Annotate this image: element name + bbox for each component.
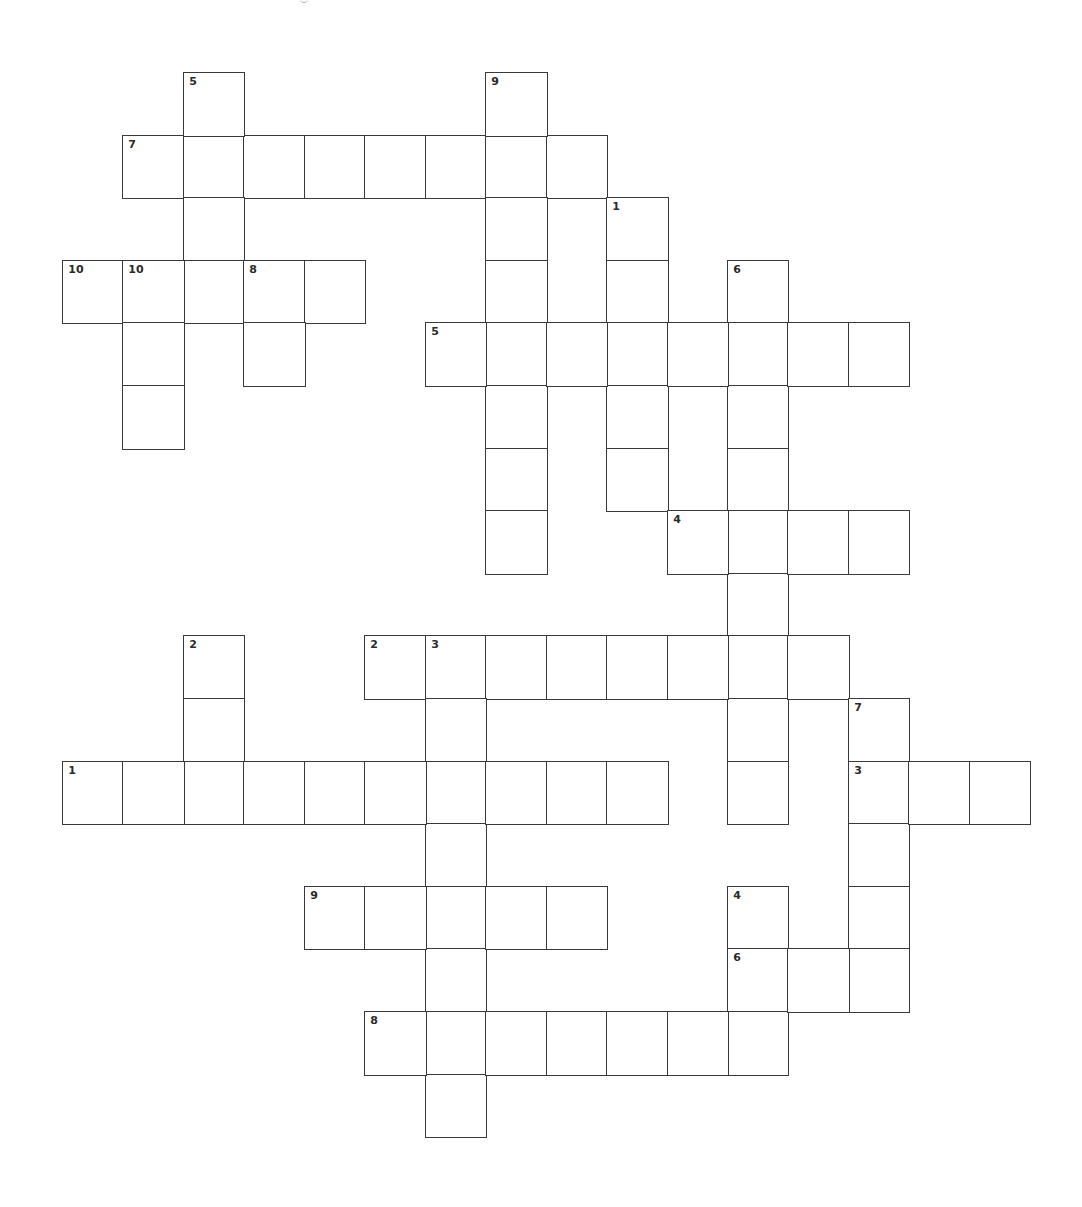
crossword-cell[interactable] <box>183 197 245 262</box>
crossword-cell[interactable] <box>485 448 548 512</box>
crossword-cell[interactable] <box>425 698 487 763</box>
crossword-cell[interactable] <box>425 1011 487 1076</box>
crossword-cell[interactable]: 3 <box>425 635 487 700</box>
crossword-cell[interactable]: 4 <box>667 510 729 575</box>
cell-letter-input[interactable] <box>426 699 486 762</box>
cell-letter-input[interactable] <box>547 323 607 386</box>
cell-letter-input[interactable] <box>547 1012 607 1075</box>
cell-letter-input[interactable] <box>788 323 849 386</box>
cell-letter-input[interactable] <box>849 824 909 887</box>
crossword-cell[interactable] <box>243 135 306 199</box>
cell-letter-input[interactable] <box>607 198 668 261</box>
crossword-cell[interactable]: 8 <box>364 1011 427 1076</box>
cell-letter-input[interactable] <box>486 887 547 949</box>
crossword-cell[interactable] <box>727 448 789 512</box>
crossword-cell[interactable] <box>546 886 608 950</box>
cell-letter-input[interactable] <box>426 1012 486 1075</box>
crossword-cell[interactable] <box>727 1011 789 1076</box>
cell-letter-input[interactable] <box>123 136 184 198</box>
cell-letter-input[interactable] <box>123 386 184 449</box>
cell-letter-input[interactable] <box>547 887 607 949</box>
cell-letter-input[interactable] <box>426 949 486 1012</box>
cell-letter-input[interactable] <box>486 762 547 824</box>
crossword-cell[interactable]: 10 <box>62 260 124 324</box>
crossword-cell[interactable]: 10 <box>122 260 185 324</box>
crossword-cell[interactable] <box>848 948 910 1013</box>
crossword-cell[interactable]: 7 <box>122 135 185 199</box>
cell-letter-input[interactable] <box>607 386 668 449</box>
crossword-cell[interactable] <box>606 260 669 324</box>
cell-letter-input[interactable] <box>123 323 184 386</box>
cell-letter-input[interactable] <box>184 73 244 136</box>
crossword-cell[interactable] <box>425 823 487 888</box>
cell-letter-input[interactable] <box>607 762 668 824</box>
cell-letter-input[interactable] <box>668 511 728 574</box>
cell-letter-input[interactable] <box>123 261 184 323</box>
crossword-cell[interactable] <box>485 635 548 700</box>
cell-letter-input[interactable] <box>728 762 788 824</box>
crossword-cell[interactable] <box>364 135 427 199</box>
cell-letter-input[interactable] <box>607 636 668 699</box>
crossword-cell[interactable] <box>848 823 910 888</box>
crossword-cell[interactable]: 2 <box>364 635 427 700</box>
crossword-cell[interactable] <box>485 761 548 825</box>
crossword-cell[interactable] <box>727 635 789 700</box>
cell-letter-input[interactable] <box>728 949 788 1012</box>
cell-letter-input[interactable] <box>849 762 909 824</box>
crossword-cell[interactable]: 2 <box>183 635 245 700</box>
crossword-cell[interactable] <box>485 510 548 575</box>
cell-letter-input[interactable] <box>486 449 547 511</box>
crossword-cell[interactable] <box>667 322 729 387</box>
cell-letter-input[interactable] <box>63 261 123 323</box>
cell-letter-input[interactable] <box>547 636 607 699</box>
cell-letter-input[interactable] <box>728 699 788 762</box>
cell-letter-input[interactable] <box>728 636 788 699</box>
cell-letter-input[interactable] <box>728 887 788 949</box>
crossword-cell[interactable] <box>667 1011 729 1076</box>
crossword-cell[interactable] <box>606 385 669 450</box>
crossword-cell[interactable] <box>667 635 729 700</box>
cell-letter-input[interactable] <box>668 323 728 386</box>
crossword-cell[interactable] <box>546 635 608 700</box>
crossword-cell[interactable] <box>727 385 789 450</box>
crossword-cell[interactable]: 6 <box>727 948 789 1013</box>
cell-letter-input[interactable] <box>244 136 305 198</box>
crossword-cell[interactable] <box>122 322 185 387</box>
crossword-cell[interactable] <box>304 135 366 199</box>
crossword-cell[interactable] <box>485 385 548 450</box>
crossword-cell[interactable] <box>606 761 669 825</box>
crossword-cell[interactable]: 5 <box>183 72 245 137</box>
crossword-cell[interactable] <box>787 635 850 700</box>
crossword-cell[interactable] <box>425 1074 487 1138</box>
crossword-cell[interactable] <box>183 260 245 324</box>
cell-letter-input[interactable] <box>909 762 970 824</box>
cell-letter-input[interactable] <box>184 136 244 198</box>
cell-letter-input[interactable] <box>244 261 305 323</box>
cell-letter-input[interactable] <box>849 699 909 762</box>
crossword-cell[interactable] <box>425 948 487 1013</box>
cell-letter-input[interactable] <box>244 323 305 386</box>
cell-letter-input[interactable] <box>486 73 547 136</box>
cell-letter-input[interactable] <box>123 762 184 824</box>
cell-letter-input[interactable] <box>849 949 909 1012</box>
crossword-cell[interactable] <box>787 510 850 575</box>
cell-letter-input[interactable] <box>365 887 426 949</box>
cell-letter-input[interactable] <box>486 136 547 198</box>
cell-letter-input[interactable] <box>426 323 486 386</box>
crossword-cell[interactable] <box>122 385 185 450</box>
crossword-cell[interactable] <box>243 761 306 825</box>
crossword-cell[interactable] <box>727 573 789 637</box>
crossword-cell[interactable] <box>848 510 910 575</box>
crossword-cell[interactable] <box>546 1011 608 1076</box>
cell-letter-input[interactable] <box>970 762 1030 824</box>
cell-letter-input[interactable] <box>426 636 486 699</box>
crossword-cell[interactable]: 7 <box>848 698 910 763</box>
cell-letter-input[interactable] <box>728 511 788 574</box>
cell-letter-input[interactable] <box>184 198 244 261</box>
cell-letter-input[interactable] <box>426 1075 486 1137</box>
cell-letter-input[interactable] <box>184 762 244 824</box>
crossword-cell[interactable]: 1 <box>606 197 669 262</box>
crossword-cell[interactable] <box>304 761 366 825</box>
cell-letter-input[interactable] <box>305 887 365 949</box>
cell-letter-input[interactable] <box>365 636 426 699</box>
